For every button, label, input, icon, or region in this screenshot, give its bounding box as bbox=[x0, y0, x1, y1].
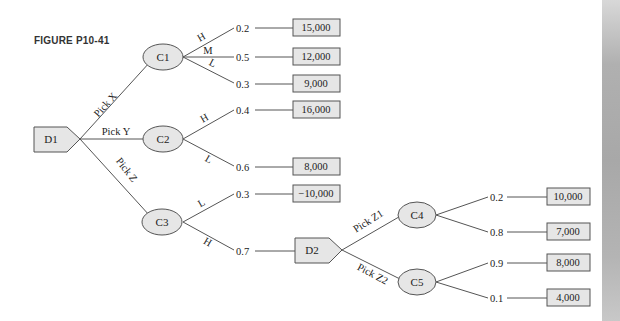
branch-label-pick-x: Pick X bbox=[92, 90, 120, 119]
chance-node-c5: C5 bbox=[398, 269, 436, 295]
node-label-c1: C1 bbox=[157, 51, 170, 63]
prob-label: 0.7 bbox=[236, 246, 249, 257]
prob-label: 0.1 bbox=[490, 293, 503, 304]
branch-label-c3-h: H bbox=[202, 235, 214, 249]
branch-label-c1-h: H bbox=[195, 30, 207, 44]
decision-node-d1: D1 bbox=[34, 127, 80, 152]
payoff-value: −10,000 bbox=[299, 188, 334, 199]
payoff-value: 8,000 bbox=[304, 161, 328, 172]
chance-node-c3: C3 bbox=[142, 209, 182, 235]
node-label-c3: C3 bbox=[156, 216, 169, 228]
payoff-value: 15,000 bbox=[302, 22, 331, 33]
prob-label: 0.9 bbox=[490, 258, 503, 269]
prob-label: 0.6 bbox=[236, 162, 249, 173]
payoff-value: 16,000 bbox=[302, 104, 331, 115]
chance-node-c4: C4 bbox=[398, 202, 436, 228]
prob-label: 0.8 bbox=[490, 227, 503, 238]
branch-label-c2-h: H bbox=[198, 111, 210, 125]
prob-label: 0.4 bbox=[236, 105, 250, 116]
prob-label: 0.2 bbox=[490, 192, 503, 203]
decision-tree-figure: FIGURE P10-41 bbox=[0, 0, 620, 321]
decision-node-d2: D2 bbox=[295, 238, 342, 263]
node-label-d2: D2 bbox=[305, 244, 318, 256]
chance-node-c2: C2 bbox=[143, 126, 183, 152]
branch-label-c3-l: L bbox=[196, 197, 207, 210]
payoff-value: 10,000 bbox=[554, 191, 583, 202]
payoff-value: 4,000 bbox=[556, 292, 580, 303]
branch-label-pick-z1: Pick Z1 bbox=[351, 208, 385, 235]
branch-label-c1-l: L bbox=[207, 57, 218, 70]
prob-label: 0.3 bbox=[236, 189, 249, 200]
payoff-value: 8,000 bbox=[556, 257, 580, 268]
decision-tree-diagram: D1 C1 C2 C3 D2 C4 C5 Pick X Pi bbox=[0, 0, 620, 321]
decorative-side-strip bbox=[602, 0, 620, 321]
prob-label: 0.2 bbox=[236, 23, 249, 34]
branch-label-c1-m: M bbox=[203, 45, 213, 56]
node-label-c2: C2 bbox=[157, 133, 170, 145]
node-label-d1: D1 bbox=[44, 133, 57, 145]
payoff-value: 12,000 bbox=[302, 51, 331, 62]
prob-label: 0.5 bbox=[236, 52, 249, 63]
chance-node-c1: C1 bbox=[143, 44, 183, 70]
node-label-c5: C5 bbox=[411, 276, 424, 288]
node-label-c4: C4 bbox=[411, 209, 424, 221]
branch-label-pick-y: Pick Y bbox=[102, 126, 131, 137]
payoff-value: 7,000 bbox=[556, 226, 580, 237]
branch-label-c2-l: L bbox=[203, 153, 214, 166]
prob-label: 0.3 bbox=[236, 79, 249, 90]
payoff-value: 9,000 bbox=[304, 78, 328, 89]
